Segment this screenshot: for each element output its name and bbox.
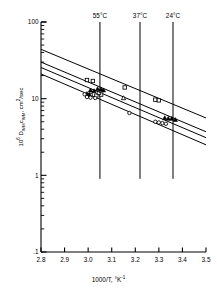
data-point-circle xyxy=(154,120,157,123)
fit-line xyxy=(41,67,206,137)
temperature-annotation-label: 24°C xyxy=(166,12,181,19)
fit-line xyxy=(41,74,206,145)
data-point-square xyxy=(91,79,94,82)
x-axis-title: 1000/T, °K-1 xyxy=(0,268,217,286)
data-point-circle xyxy=(94,96,97,99)
x-tick-label: 2.8 xyxy=(37,256,46,263)
arrhenius-plot-figure: .11101002.82.93.03.13.23.33.43.555°C37°C… xyxy=(0,0,217,288)
data-point-circle xyxy=(128,111,131,114)
x-tick-label: 3.2 xyxy=(131,256,140,263)
data-point-square xyxy=(85,78,88,81)
y-axis-title-text: 106 DWMcWM, cm2/sec xyxy=(18,88,24,147)
x-tick-label: 2.9 xyxy=(60,256,69,263)
data-point-circle xyxy=(157,121,160,124)
data-point-circle xyxy=(161,121,164,124)
temperature-annotation-label: 55°C xyxy=(93,12,108,19)
y-tick-label: 100 xyxy=(28,18,39,25)
x-tick-label: 3.4 xyxy=(178,256,187,263)
chart-canvas: .11101002.82.93.03.13.23.33.43.555°C37°C… xyxy=(0,0,217,288)
x-tick-label: 3.0 xyxy=(84,256,93,263)
x-tick-label: 3.1 xyxy=(107,256,116,263)
y-tick-label: 1 xyxy=(35,172,39,179)
data-point-square xyxy=(157,99,160,102)
y-axis-title: 106 DWMcWM, cm2/sec xyxy=(9,69,27,165)
y-tick-label: .1 xyxy=(33,248,39,255)
data-point-circle xyxy=(164,122,167,125)
data-point-triangle-filled xyxy=(95,87,99,91)
x-tick-label: 3.5 xyxy=(202,256,211,263)
temperature-annotation-label: 37°C xyxy=(133,12,148,19)
data-point-triangle-filled xyxy=(88,88,92,92)
x-axis-title-text: 1000/T, °K-1 xyxy=(92,276,126,283)
fit-line xyxy=(41,49,206,118)
data-point-square xyxy=(123,86,126,89)
y-tick-label: 10 xyxy=(31,95,39,102)
data-point-triangle-filled xyxy=(163,116,167,120)
data-point-square xyxy=(154,98,157,101)
x-tick-label: 3.3 xyxy=(154,256,163,263)
data-point-circle xyxy=(89,96,92,99)
data-point-circle xyxy=(85,95,88,98)
